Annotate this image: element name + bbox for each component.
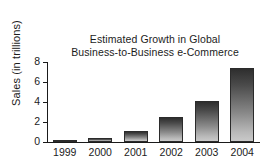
x-axis-tick-label-2002: 2002 [154, 146, 190, 159]
plot-area: 02468 199920002001200220032004 [47, 62, 260, 142]
chart-title-line-1: Estimated Growth in Global [48, 33, 262, 46]
x-axis-tick-label-2000: 2000 [83, 146, 119, 159]
y-axis-tick-label: 2 [34, 115, 40, 128]
x-axis-spine [47, 142, 260, 143]
x-axis-tick-label-1999: 1999 [47, 146, 83, 159]
bar-2003 [195, 101, 219, 143]
bar-chart-figure: Estimated Growth in Global Business-to-B… [0, 0, 266, 166]
y-axis-tick-label: 6 [34, 75, 40, 88]
y-axis-tick-label: 4 [34, 95, 40, 108]
y-axis-tick: 8 [43, 62, 47, 63]
y-axis-spine [47, 62, 48, 143]
chart-title-line-2: Business-to-Business e-Commerce [48, 46, 262, 59]
y-axis-label: Sales (in trillions) [10, 15, 22, 111]
bar-2001 [124, 131, 148, 142]
y-axis-tick: 6 [43, 82, 47, 83]
x-axis-tick-label-2004: 2004 [225, 146, 261, 159]
bar-1999 [53, 140, 77, 142]
y-axis-tick: 4 [43, 102, 47, 103]
bar-2000 [88, 138, 112, 143]
y-axis-tick-label: 0 [34, 135, 40, 148]
x-axis-tick-label-2003: 2003 [189, 146, 225, 159]
x-axis-tick-label-2001: 2001 [118, 146, 154, 159]
bar-2002 [159, 117, 183, 142]
y-axis-tick: 0 [43, 142, 47, 143]
y-axis-tick-label: 8 [34, 55, 40, 68]
chart-title: Estimated Growth in Global Business-to-B… [48, 33, 262, 59]
bar-2004 [230, 68, 254, 143]
y-axis-tick: 2 [43, 122, 47, 123]
